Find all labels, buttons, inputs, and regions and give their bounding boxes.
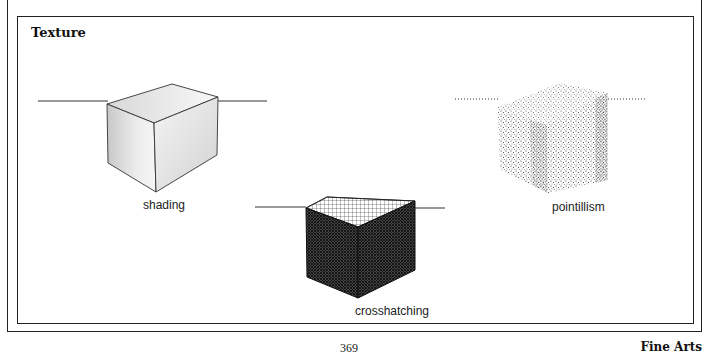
shading-label: shading — [143, 198, 185, 212]
pointillism-label: pointillism — [552, 200, 605, 214]
pointillism-cube — [455, 83, 645, 193]
page-number: 369 — [340, 341, 358, 356]
crosshatching-label: crosshatching — [355, 304, 429, 318]
section-name: Fine Arts — [640, 340, 702, 354]
shading-cube — [38, 84, 267, 192]
crosshatching-cube — [255, 197, 445, 298]
